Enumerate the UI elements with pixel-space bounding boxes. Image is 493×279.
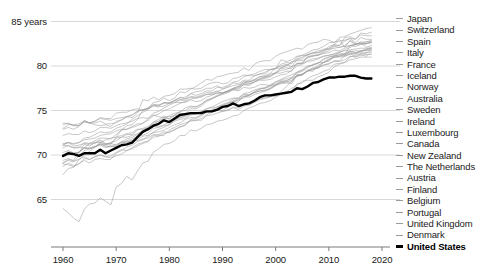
- chart-legend: JapanSwitzerlandSpainItalyFranceIcelandN…: [396, 13, 493, 252]
- legend-item-label: Japan: [407, 13, 432, 24]
- legend-line-icon: [396, 155, 403, 156]
- legend-item[interactable]: The Netherlands: [396, 161, 493, 172]
- legend-line-icon: [396, 132, 403, 133]
- y-axis-tick-label: 70: [37, 149, 47, 160]
- legend-line-icon: [396, 98, 403, 99]
- legend-line-icon: [396, 87, 403, 88]
- legend-item-label: United Kingdom: [407, 218, 473, 229]
- legend-line-icon: [396, 109, 403, 110]
- legend-line-icon: [396, 235, 403, 236]
- x-axis-tick-label: 2020: [357, 254, 407, 265]
- y-axis-tick-label: 80: [37, 60, 47, 71]
- legend-item[interactable]: Norway: [396, 81, 493, 92]
- legend-line-icon: [396, 121, 403, 122]
- legend-line-icon: [396, 64, 403, 65]
- y-axis-tick-label: 75: [37, 105, 47, 116]
- legend-item-label: Canada: [407, 138, 439, 149]
- chart-root: 85 years80757065196019701980199020002010…: [0, 0, 493, 279]
- legend-item[interactable]: Portugal: [396, 207, 493, 218]
- legend-line-icon: [396, 189, 403, 190]
- legend-item-label: Australia: [407, 93, 443, 104]
- legend-item[interactable]: France: [396, 59, 493, 70]
- legend-item-label: Ireland: [407, 116, 435, 127]
- legend-item[interactable]: Italy: [396, 47, 493, 58]
- legend-line-icon: [396, 212, 403, 213]
- legend-line-icon: [396, 30, 403, 31]
- legend-item[interactable]: Finland: [396, 184, 493, 195]
- legend-item[interactable]: Belgium: [396, 195, 493, 206]
- legend-item[interactable]: Ireland: [396, 116, 493, 127]
- legend-line-icon: [396, 52, 403, 53]
- legend-item-label: Portugal: [407, 207, 441, 218]
- series-line: [63, 52, 371, 153]
- legend-line-icon: [396, 178, 403, 179]
- x-axis-tick-label: 1960: [38, 254, 88, 265]
- legend-item-label: Italy: [407, 47, 424, 58]
- legend-line-icon: [396, 245, 403, 247]
- legend-item-label: The Netherlands: [407, 161, 475, 172]
- legend-line-icon: [396, 75, 403, 76]
- legend-item-label: Finland: [407, 184, 437, 195]
- legend-line-icon: [396, 223, 403, 224]
- plot-area: 85 years80757065196019701980199020002010…: [0, 0, 400, 279]
- legend-item-label: France: [407, 59, 436, 70]
- legend-item-label: Iceland: [407, 70, 437, 81]
- legend-item-label: Luxembourg: [407, 127, 458, 138]
- legend-item[interactable]: Canada: [396, 138, 493, 149]
- legend-item[interactable]: United States: [396, 241, 493, 252]
- legend-item[interactable]: Japan: [396, 13, 493, 24]
- legend-item[interactable]: Austria: [396, 172, 493, 183]
- series-line: [63, 48, 371, 145]
- series-lines: [63, 28, 371, 222]
- legend-item-label: Spain: [407, 36, 431, 47]
- legend-item-label: Austria: [407, 172, 436, 183]
- legend-item[interactable]: Switzerland: [396, 24, 493, 35]
- line-chart-svg: [0, 0, 400, 279]
- x-axis-tick-label: 1970: [91, 254, 141, 265]
- legend-item-label: Switzerland: [407, 24, 454, 35]
- legend-item[interactable]: Luxembourg: [396, 127, 493, 138]
- x-axis-tick-label: 2000: [251, 254, 301, 265]
- legend-item[interactable]: Sweden: [396, 104, 493, 115]
- legend-item-label: Norway: [407, 81, 438, 92]
- legend-item[interactable]: Iceland: [396, 70, 493, 81]
- x-axis-tick-label: 1980: [144, 254, 194, 265]
- y-axis-tick-label: 65: [37, 194, 47, 205]
- legend-item-label: Denmark: [407, 229, 445, 240]
- y-axis-tick-label: 85 years: [11, 16, 47, 27]
- x-axis-tick-label: 1990: [198, 254, 248, 265]
- legend-item-label: Belgium: [407, 195, 440, 206]
- legend-item[interactable]: Denmark: [396, 229, 493, 240]
- legend-line-icon: [396, 18, 403, 19]
- series-line: [63, 39, 371, 129]
- legend-line-icon: [396, 41, 403, 42]
- legend-line-icon: [396, 200, 403, 201]
- legend-item[interactable]: Australia: [396, 93, 493, 104]
- legend-item-label: New Zealand: [407, 150, 461, 161]
- x-axis-tick-label: 2010: [304, 254, 354, 265]
- legend-line-icon: [396, 166, 403, 167]
- legend-item-label: United States: [407, 241, 466, 252]
- legend-item-label: Sweden: [407, 104, 440, 115]
- legend-line-icon: [396, 143, 403, 144]
- legend-item[interactable]: New Zealand: [396, 150, 493, 161]
- legend-item[interactable]: United Kingdom: [396, 218, 493, 229]
- legend-item[interactable]: Spain: [396, 36, 493, 47]
